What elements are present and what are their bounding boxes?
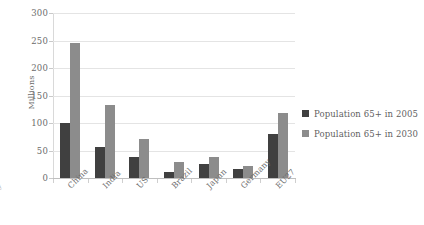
bar [105,105,115,178]
light-gray-swatch [302,130,309,137]
chart-legend: Population 65+ in 2005Population 65+ in … [302,106,418,146]
bar [199,164,209,178]
bar-group [53,13,88,178]
legend-label: Population 65+ in 2030 [314,129,418,139]
legend-label: Population 65+ in 2005 [314,109,418,119]
x-axis-tick-mark [122,179,123,183]
bar [95,147,105,178]
y-axis-tick-label: 200 [6,63,48,73]
y-axis-tick-label: 250 [6,36,48,46]
bar-group [157,13,192,178]
y-axis-tick-label: 300 [6,8,48,18]
bar-group [122,13,157,178]
plot-area [53,13,295,178]
bar-group [88,13,123,178]
x-axis-tick-mark [226,179,227,183]
bar [278,113,288,178]
bar-group [191,13,226,178]
dark-gray-swatch [302,110,309,117]
bar-group [260,13,295,178]
y-axis-tick-label: 50 [6,146,48,156]
x-axis-tick-mark [295,179,296,183]
y-axis-tick-label: 100 [6,118,48,128]
legend-item[interactable]: Population 65+ in 2030 [302,126,418,141]
bar-chart: Millions 050100150200250300 ChinaIndiaUS… [0,0,424,225]
clipped-axis-label: y [0,181,4,191]
y-axis-ticks: 050100150200250300 [0,13,48,178]
x-axis-tick-mark [157,179,158,183]
x-axis-tick-mark [88,179,89,183]
bar [60,123,70,178]
y-axis-tick-label: 0 [6,173,48,183]
x-axis-tick-mark [260,179,261,183]
bar [268,134,278,178]
bar [233,169,243,178]
bar [139,139,149,178]
x-axis-tick-mark [53,179,54,183]
legend-item[interactable]: Population 65+ in 2005 [302,106,418,121]
y-axis-tick-label: 150 [6,91,48,101]
bar [70,43,80,178]
bar-group [226,13,261,178]
x-axis-tick-mark [191,179,192,183]
bar [129,157,139,178]
